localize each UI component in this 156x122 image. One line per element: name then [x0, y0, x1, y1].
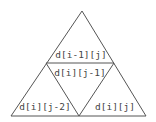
- cell-center-label: d[i][j-1]: [54, 67, 105, 78]
- cell-bottom-right-label: d[i][j]: [95, 101, 135, 112]
- cell-top-label: d[i-1][j]: [55, 49, 106, 60]
- triangle-diagram: d[i-1][j] d[i][j-1] d[i][j-2] d[i][j]: [0, 0, 156, 122]
- cell-bottom-left-label: d[i][j-2]: [19, 101, 70, 112]
